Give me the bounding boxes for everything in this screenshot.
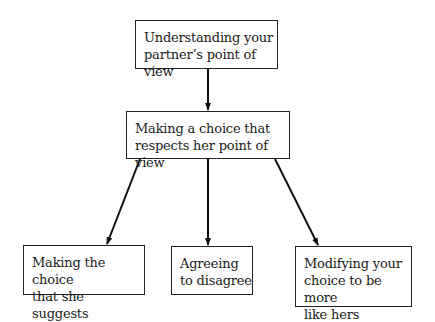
node-text-line: partner’s point of view: [144, 46, 277, 80]
node-text-line: like hers: [304, 306, 411, 322]
node-agreeing-to-disagree: Agreeing to disagree: [171, 246, 253, 295]
node-understanding-partner: Understanding your partner’s point of vi…: [135, 20, 278, 69]
node-text-line: to disagree: [180, 272, 252, 289]
node-text-line: Agreeing: [180, 255, 252, 272]
node-text-line: choice to be more: [304, 272, 411, 306]
node-text-line: Making a choice that: [135, 120, 289, 137]
node-choice-she-suggests: Making the choice that she suggests: [23, 245, 145, 295]
node-text-line: that she suggests: [32, 288, 144, 322]
node-text-line: Understanding your: [144, 29, 277, 46]
node-making-choice: Making a choice that respects her point …: [126, 111, 290, 159]
node-text-line: Modifying your: [304, 255, 411, 272]
node-modifying-choice: Modifying your choice to be more like he…: [295, 246, 412, 307]
arrow-middle-to-left: [107, 159, 140, 244]
node-text-line: Making the choice: [32, 254, 144, 288]
arrow-middle-to-right: [275, 159, 318, 245]
node-text-line: respects her point of view: [135, 137, 289, 171]
